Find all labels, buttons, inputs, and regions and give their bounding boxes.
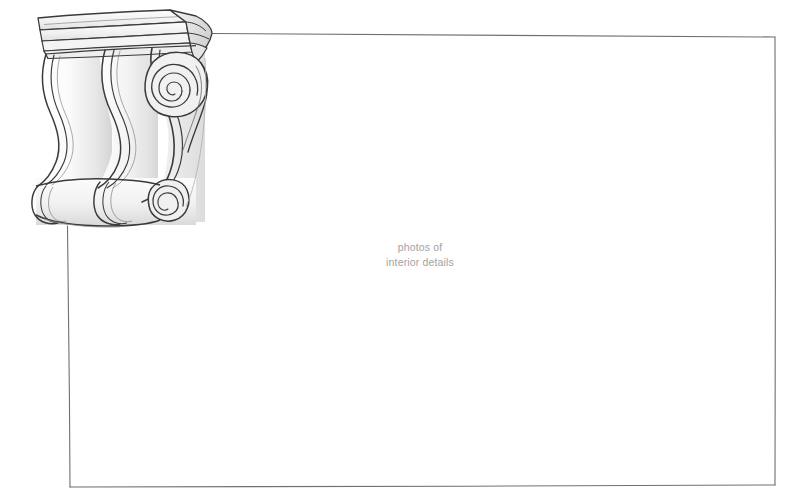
architectural-corbel — [32, 10, 212, 227]
caption-line-2: interior details — [320, 255, 520, 270]
placeholder-caption: photos of interior details — [320, 240, 520, 270]
page-canvas: photos of interior details — [0, 0, 788, 502]
frame-edge-bottom — [70, 485, 775, 487]
frame-edge-left — [68, 226, 71, 487]
volute-lower — [148, 179, 189, 221]
frame-edge-top — [212, 34, 775, 38]
caption-line-1: photos of — [320, 240, 520, 255]
